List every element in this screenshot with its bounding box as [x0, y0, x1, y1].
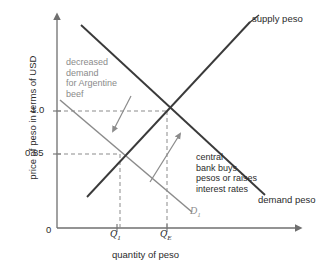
demand-curve-label: demand peso — [258, 194, 316, 205]
supply-curve-label: supply peso — [252, 13, 303, 24]
central-bank-arrow — [150, 134, 180, 182]
annotation-central-bank-line-1: central — [196, 152, 257, 163]
x-tick-qe-subscript: E — [167, 234, 171, 242]
annotation-central-bank: central bank buys pesos or raises intere… — [196, 152, 257, 194]
annotation-decreased-demand-line-2: demand — [66, 68, 117, 79]
shifted-demand-curve-label: D1 — [190, 205, 201, 219]
annotation-decreased-demand-line-1: decreased — [66, 57, 117, 68]
decreased-demand-arrow — [113, 96, 131, 131]
x-tick-label-qe: QE — [160, 228, 172, 242]
annotation-decreased-demand: decreased demand for Argentine beef — [66, 57, 117, 99]
x-tick-label-q1: Q1 — [110, 228, 121, 242]
shifted-demand-subscript: 1 — [197, 211, 201, 219]
y-tick-label-0-85: 0.85 — [25, 147, 44, 158]
annotation-central-bank-line-4: interest rates — [196, 184, 257, 195]
y-axis-title: price of peso in terms of USD — [27, 38, 38, 198]
origin-label: 0 — [46, 224, 51, 235]
annotation-central-bank-line-3: pesos or raises — [196, 173, 257, 184]
annotation-decreased-demand-line-3: for Argentine — [66, 78, 117, 89]
annotation-central-bank-line-2: bank buys — [196, 163, 257, 174]
supply-demand-chart: price of peso in terms of USD quantity o… — [0, 0, 335, 268]
y-tick-label-1-0: 1.0 — [31, 104, 44, 115]
x-axis-title: quantity of peso — [112, 249, 179, 260]
annotation-decreased-demand-line-4: beef — [66, 89, 117, 100]
x-tick-q1-subscript: 1 — [117, 234, 121, 242]
